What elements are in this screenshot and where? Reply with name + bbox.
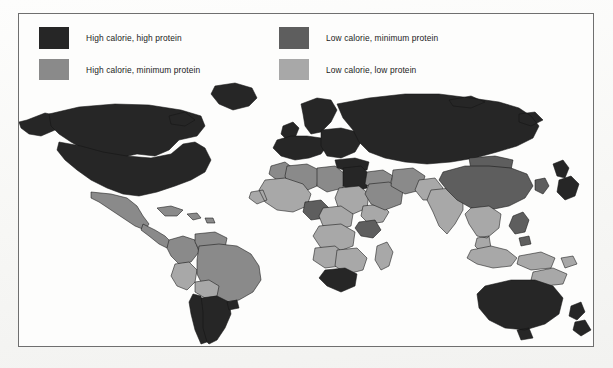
figure-page: High calorie, high protein High calorie,… (0, 0, 613, 368)
legend-swatch-icon (279, 27, 309, 49)
legend-item-label: Low calorie, minimum protein (326, 33, 438, 43)
legend-swatch-icon (39, 59, 69, 81)
world-map-container (19, 80, 593, 346)
map-legend: High calorie, high protein High calorie,… (19, 14, 593, 88)
legend-swatch-icon (279, 59, 309, 81)
legend-item-label: High calorie, high protein (86, 33, 182, 43)
legend-item-label: High calorie, minimum protein (86, 65, 200, 75)
legend-column-right: Low calorie, minimum protein Low calorie… (279, 23, 438, 87)
legend-item-label: Low calorie, low protein (326, 65, 416, 75)
legend-swatch-icon (39, 27, 69, 49)
legend-item-high-cal-high-protein: High calorie, high protein (39, 23, 200, 53)
legend-column-left: High calorie, high protein High calorie,… (39, 23, 200, 87)
legend-item-low-cal-min-protein: Low calorie, minimum protein (279, 23, 438, 53)
region-uruguay (227, 300, 239, 310)
figure-frame: High calorie, high protein High calorie,… (18, 13, 594, 347)
world-map (19, 80, 593, 346)
